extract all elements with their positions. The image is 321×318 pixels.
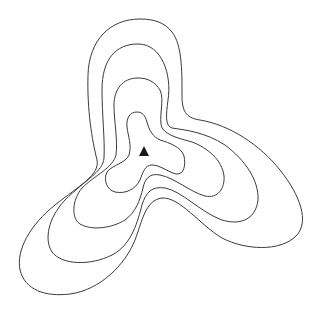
contour-line-second	[48, 44, 258, 263]
contour-map	[0, 0, 321, 318]
summit-triangle-icon	[139, 146, 149, 156]
contour-line-outer	[19, 19, 302, 295]
contour-diagram	[0, 0, 321, 318]
